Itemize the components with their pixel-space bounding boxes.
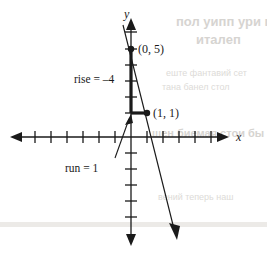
showthrough-rule xyxy=(0,222,267,227)
showthrough-line-3: еште фантавий сет xyxy=(166,68,247,78)
x-axis-label: x xyxy=(235,130,242,144)
point-y-intercept xyxy=(128,46,134,52)
point-label-second: (1, 1) xyxy=(153,106,179,120)
math-figure-linear-graph: пол уипп ури пн италеп еште фантавий сет… xyxy=(0,0,267,263)
run-leader-line xyxy=(115,119,129,158)
run-annotation-leader xyxy=(115,114,133,158)
run-annotation-label: run = 1 xyxy=(65,162,99,174)
page-showthrough-text: пол уипп ури пн италеп еште фантавий сет… xyxy=(0,14,267,227)
coordinate-plane-svg: пол уипп ури пн италеп еште фантавий сет… xyxy=(0,0,267,263)
showthrough-line-4: тана банел стол xyxy=(162,82,229,92)
point-second xyxy=(144,110,150,116)
y-axis-bottom-arrowhead xyxy=(126,234,136,246)
x-axis-left-arrowhead xyxy=(10,132,22,142)
showthrough-line-1: пол уипп ури пн xyxy=(176,14,267,29)
showthrough-line-6: вений теперь наш xyxy=(158,192,234,202)
point-label-y-intercept: (0, 5) xyxy=(138,42,164,56)
run-leader-arrowhead xyxy=(125,114,133,125)
showthrough-line-2: италеп xyxy=(196,32,241,47)
plotted-line-arrowhead xyxy=(169,223,180,240)
y-axis-label: y xyxy=(123,7,130,21)
rise-annotation-label: rise = –4 xyxy=(74,73,115,85)
